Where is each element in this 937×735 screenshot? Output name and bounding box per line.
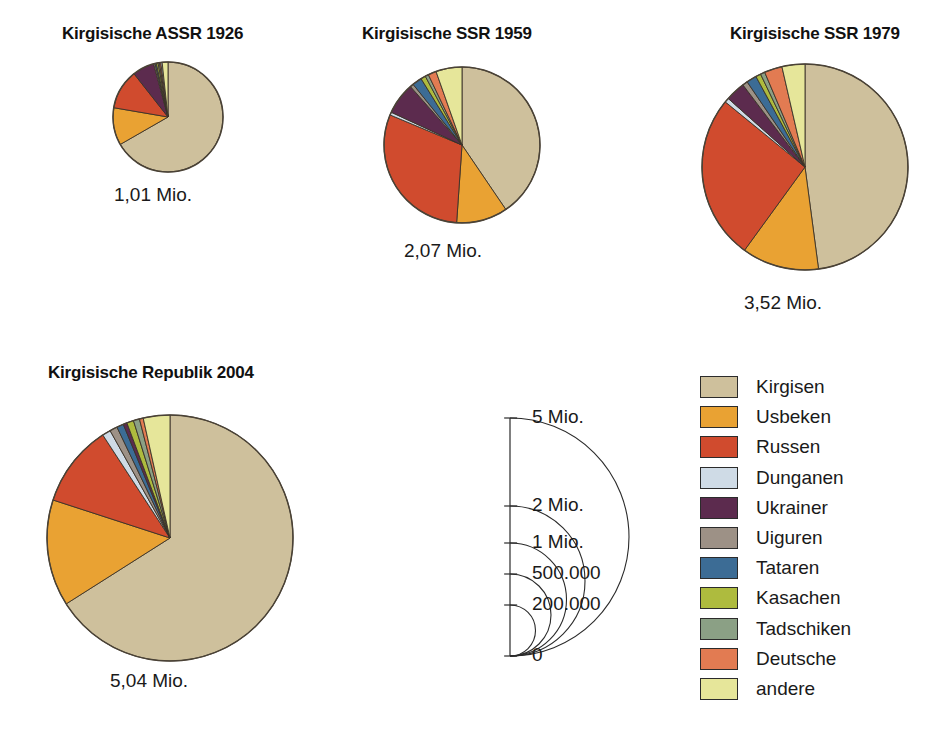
legend-item-andere[interactable]: andere <box>700 674 851 704</box>
scale-tick-label: 0 <box>532 644 543 666</box>
legend-color-swatch <box>700 587 738 609</box>
chart-title-pie-1959: Kirgisische SSR 1959 <box>362 24 532 44</box>
scale-tick-label: 500.000 <box>532 562 601 584</box>
legend-color-swatch <box>700 436 738 458</box>
chart-total-label-pie-1979: 3,52 Mio. <box>744 292 822 314</box>
legend-item-label: Deutsche <box>756 648 836 670</box>
figure-canvas: Kirgisische ASSR 19261,01 Mio.Kirgisisch… <box>0 0 937 735</box>
legend-item-label: Ukrainer <box>756 497 828 519</box>
legend: KirgisenUsbekenRussenDunganenUkrainerUig… <box>700 372 851 704</box>
legend-color-swatch <box>700 648 738 670</box>
legend-color-swatch <box>700 527 738 549</box>
pie-slice-kirgisen <box>805 64 908 269</box>
legend-item-kirgisen[interactable]: Kirgisen <box>700 372 851 402</box>
legend-color-swatch <box>700 376 738 398</box>
legend-color-swatch <box>700 406 738 428</box>
scale-reference-diagram: 5 Mio.2 Mio.1 Mio.500.000200.0000 <box>400 395 560 685</box>
legend-item-kasachen[interactable]: Kasachen <box>700 583 851 613</box>
legend-item-usbeken[interactable]: Usbeken <box>700 402 851 432</box>
legend-color-swatch <box>700 557 738 579</box>
legend-item-ukrainer[interactable]: Ukrainer <box>700 493 851 523</box>
legend-item-label: Dunganen <box>756 467 844 489</box>
chart-title-pie-1979: Kirgisische SSR 1979 <box>730 24 900 44</box>
legend-item-tataren[interactable]: Tataren <box>700 553 851 583</box>
legend-item-russen[interactable]: Russen <box>700 432 851 462</box>
legend-item-label: Kasachen <box>756 587 841 609</box>
pie-1979 <box>698 60 912 274</box>
pie-2004 <box>43 411 297 665</box>
legend-color-swatch <box>700 497 738 519</box>
legend-item-label: Russen <box>756 436 820 458</box>
legend-item-label: Kirgisen <box>756 376 825 398</box>
chart-total-label-pie-1926: 1,01 Mio. <box>114 184 192 206</box>
chart-total-label-pie-2004: 5,04 Mio. <box>110 670 188 692</box>
pie-1926 <box>109 58 227 176</box>
legend-item-dunganen[interactable]: Dunganen <box>700 463 851 493</box>
scale-tick-label: 5 Mio. <box>532 406 584 428</box>
legend-item-label: Tataren <box>756 557 819 579</box>
chart-title-pie-1926: Kirgisische ASSR 1926 <box>62 24 243 44</box>
legend-item-label: Uiguren <box>756 527 823 549</box>
legend-color-swatch <box>700 467 738 489</box>
chart-title-pie-2004: Kirgisische Republik 2004 <box>48 363 254 383</box>
chart-total-label-pie-1959: 2,07 Mio. <box>404 240 482 262</box>
legend-item-uiguren[interactable]: Uiguren <box>700 523 851 553</box>
legend-item-label: Tadschiken <box>756 618 851 640</box>
scale-tick-label: 1 Mio. <box>532 531 584 553</box>
legend-color-swatch <box>700 618 738 640</box>
legend-item-label: Usbeken <box>756 406 831 428</box>
legend-item-label: andere <box>756 678 815 700</box>
legend-item-tadschiken[interactable]: Tadschiken <box>700 614 851 644</box>
scale-tick-label: 200.000 <box>532 593 601 615</box>
legend-item-deutsche[interactable]: Deutsche <box>700 644 851 674</box>
pie-1959 <box>380 63 544 227</box>
legend-color-swatch <box>700 678 738 700</box>
scale-tick-label: 2 Mio. <box>532 494 584 516</box>
